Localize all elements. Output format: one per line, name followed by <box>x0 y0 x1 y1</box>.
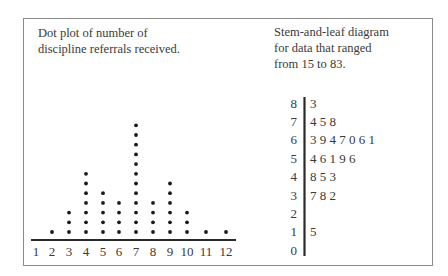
axis-tick-label: 5 <box>100 244 107 259</box>
stem-value: 2 <box>291 206 298 221</box>
stem-leaf-diagram: 8374 5 863 9 4 7 0 6 154 6 1 9 648 5 337… <box>291 96 376 258</box>
stem-value: 8 <box>291 96 298 111</box>
leaf-values: 8 5 3 <box>310 169 336 184</box>
data-dot <box>84 230 88 234</box>
axis-tick-label: 11 <box>200 244 213 259</box>
data-dot <box>84 191 88 195</box>
stem-value: 3 <box>291 188 298 203</box>
data-dot <box>134 191 138 195</box>
data-dot <box>168 201 172 205</box>
axis-tick-label: 8 <box>150 244 157 259</box>
data-dot <box>185 211 189 215</box>
data-dot <box>101 201 105 205</box>
data-dot <box>185 230 189 234</box>
data-dot <box>134 230 138 234</box>
data-dot <box>117 230 121 234</box>
leaf-values: 5 <box>310 224 317 239</box>
axis-tick-label: 1 <box>33 244 40 259</box>
axis-tick-label: 7 <box>133 244 140 259</box>
axis-tick-label: 12 <box>220 244 233 259</box>
axis-tick-label: 4 <box>83 244 90 259</box>
data-dot <box>67 230 71 234</box>
leaf-values: 4 5 8 <box>310 114 336 129</box>
dot-plot <box>50 123 228 234</box>
data-dot <box>134 220 138 224</box>
data-dot <box>101 230 105 234</box>
data-dot <box>84 182 88 186</box>
axis-tick-label: 9 <box>167 244 174 259</box>
data-dot <box>134 153 138 157</box>
data-dot <box>134 182 138 186</box>
data-dot <box>134 162 138 166</box>
stem-value: 1 <box>291 224 298 239</box>
data-dot <box>84 220 88 224</box>
data-dot <box>101 211 105 215</box>
data-dot <box>168 230 172 234</box>
leaf-values: 3 <box>310 96 317 111</box>
data-dot <box>224 230 228 234</box>
data-dot <box>84 211 88 215</box>
stem-value: 4 <box>291 169 298 184</box>
data-dot <box>67 211 71 215</box>
stem-value: 0 <box>291 243 298 258</box>
data-dot <box>151 201 155 205</box>
data-dot <box>168 211 172 215</box>
data-dot <box>134 123 138 127</box>
data-dot <box>134 201 138 205</box>
data-dot <box>151 211 155 215</box>
data-dot <box>134 133 138 137</box>
data-dot <box>168 191 172 195</box>
data-dot <box>50 230 54 234</box>
stem-value: 6 <box>291 132 298 147</box>
dot-plot-axis-labels: 123456789101112 <box>33 244 233 259</box>
axis-tick-label: 3 <box>66 244 73 259</box>
data-dot <box>101 191 105 195</box>
data-dot <box>151 220 155 224</box>
axis-tick-label: 10 <box>181 244 194 259</box>
data-dot <box>84 172 88 176</box>
data-dot <box>168 220 172 224</box>
data-dot <box>168 182 172 186</box>
leaf-values: 4 6 1 9 6 <box>310 151 356 166</box>
data-dot <box>134 143 138 147</box>
data-dot <box>117 220 121 224</box>
leaf-values: 7 8 2 <box>310 188 336 203</box>
data-dot <box>134 211 138 215</box>
leaf-values: 3 9 4 7 0 6 1 <box>310 132 375 147</box>
axis-tick-label: 6 <box>116 244 123 259</box>
data-dot <box>101 220 105 224</box>
data-dot <box>151 230 155 234</box>
data-dot <box>84 201 88 205</box>
data-dot <box>67 220 71 224</box>
data-dot <box>117 201 121 205</box>
figure-canvas: 123456789101112 8374 5 863 9 4 7 0 6 154… <box>0 0 448 276</box>
axis-tick-label: 2 <box>49 244 56 259</box>
stem-value: 5 <box>291 151 298 166</box>
data-dot <box>185 220 189 224</box>
stem-value: 7 <box>291 114 298 129</box>
data-dot <box>204 230 208 234</box>
data-dot <box>117 211 121 215</box>
data-dot <box>134 172 138 176</box>
